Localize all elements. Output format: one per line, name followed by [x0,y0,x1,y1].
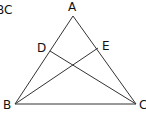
segment-ac [73,16,136,104]
corner-text: BC [0,4,12,16]
triangle-diagram [0,0,146,114]
segment-cd [50,51,136,104]
label-e: E [102,40,110,52]
segment-be [15,48,98,104]
label-d: D [37,42,46,54]
label-a: A [68,1,76,13]
label-c: C [139,99,146,111]
label-b: B [3,99,11,111]
